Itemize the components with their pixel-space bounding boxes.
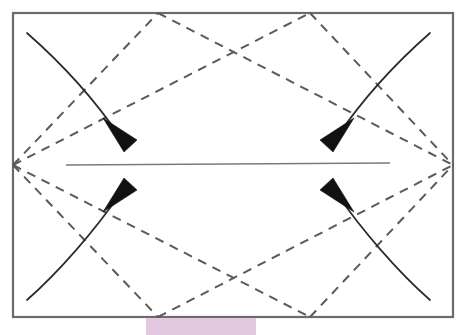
diagram-root: [0, 0, 467, 335]
fold-diagram-canvas: [0, 0, 467, 335]
bottom-highlight-band: [146, 318, 256, 335]
